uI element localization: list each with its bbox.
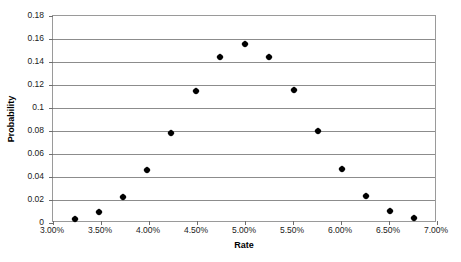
x-axis-tick-label: 5.50% bbox=[280, 226, 304, 235]
y-axis-tick bbox=[49, 62, 53, 63]
data-point bbox=[168, 130, 175, 137]
gridline bbox=[53, 200, 435, 201]
data-point bbox=[241, 41, 248, 48]
gridline bbox=[53, 85, 435, 86]
y-axis-tick-label: 0.1 bbox=[0, 103, 44, 112]
data-point bbox=[192, 87, 199, 94]
y-axis-tick-label: 0.02 bbox=[0, 195, 44, 204]
y-axis-tick bbox=[49, 108, 53, 109]
y-axis-tick bbox=[49, 131, 53, 132]
y-axis-tick-label: 0.16 bbox=[0, 34, 44, 43]
y-axis-tick-label: 0.08 bbox=[0, 126, 44, 135]
y-axis-tick bbox=[49, 200, 53, 201]
x-axis-tick-label: 5.00% bbox=[232, 226, 256, 235]
y-axis-tick bbox=[49, 16, 53, 17]
x-axis-tick-label: 4.00% bbox=[136, 226, 160, 235]
data-point bbox=[144, 167, 151, 174]
data-point bbox=[362, 192, 369, 199]
x-axis-tick-label: 6.00% bbox=[328, 226, 352, 235]
data-point bbox=[96, 209, 103, 216]
y-axis-tick bbox=[49, 39, 53, 40]
gridline bbox=[53, 154, 435, 155]
x-axis-tick-label: 3.00% bbox=[40, 226, 64, 235]
data-point bbox=[72, 215, 79, 222]
gridline bbox=[53, 131, 435, 132]
plot-area bbox=[52, 15, 436, 222]
gridline bbox=[53, 62, 435, 63]
y-axis-tick bbox=[49, 154, 53, 155]
x-axis-tick-label: 7.00% bbox=[424, 226, 448, 235]
y-axis-tick-label: 0.18 bbox=[0, 11, 44, 20]
y-axis-tick-label: 0.14 bbox=[0, 57, 44, 66]
data-point bbox=[386, 207, 393, 214]
data-point bbox=[265, 53, 272, 60]
data-point bbox=[338, 165, 345, 172]
y-axis-tick-label: 0.04 bbox=[0, 172, 44, 181]
x-axis-title: Rate bbox=[52, 240, 436, 250]
data-point bbox=[314, 127, 321, 134]
x-axis-tick-label: 6.50% bbox=[376, 226, 400, 235]
data-point bbox=[290, 87, 297, 94]
data-point bbox=[410, 215, 417, 222]
data-point bbox=[216, 53, 223, 60]
y-axis-tick-label: 0.12 bbox=[0, 80, 44, 89]
probability-rate-scatter-chart: Probability 00.020.040.060.080.10.120.14… bbox=[0, 0, 461, 262]
y-axis-title: Probability bbox=[4, 15, 18, 222]
y-axis-tick bbox=[49, 177, 53, 178]
gridline bbox=[53, 177, 435, 178]
y-axis-tick-label: 0 bbox=[0, 218, 44, 227]
y-axis-tick-label: 0.06 bbox=[0, 149, 44, 158]
x-axis-tick-label: 4.50% bbox=[184, 226, 208, 235]
x-axis-tick-label: 3.50% bbox=[88, 226, 112, 235]
gridline bbox=[53, 108, 435, 109]
y-axis-tick bbox=[49, 85, 53, 86]
